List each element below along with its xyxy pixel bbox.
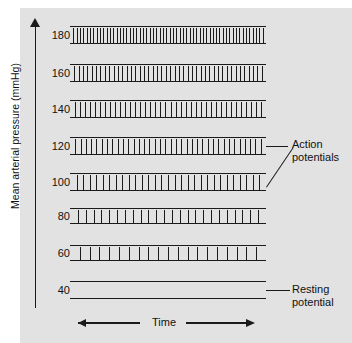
action-potential-spike	[95, 102, 96, 117]
action-potential-spike	[101, 210, 102, 223]
action-potential-spike	[216, 102, 217, 117]
action-potential-spike	[258, 210, 259, 223]
action-potential-spike	[110, 28, 111, 43]
action-potential-spike	[196, 66, 197, 81]
action-potential-spike	[155, 102, 156, 117]
spike-group	[70, 102, 266, 117]
action-potential-spike	[133, 210, 134, 223]
action-potential-spike	[206, 28, 207, 43]
action-potential-spike	[242, 210, 243, 223]
action-potential-spike	[83, 175, 84, 190]
action-potential-spike	[129, 175, 130, 190]
action-potential-spike	[140, 66, 141, 81]
action-potential-spike	[219, 210, 220, 223]
x-axis: Time	[78, 316, 258, 330]
action-potential-spike	[231, 102, 232, 117]
action-potential-spike	[221, 102, 222, 117]
action-potential-spike	[216, 28, 217, 43]
action-potential-spike	[205, 66, 206, 81]
spike-trace-80	[70, 208, 266, 224]
action-potential-spike	[201, 175, 202, 190]
action-potential-spike	[250, 210, 251, 223]
action-potential-spike	[123, 28, 124, 43]
action-potential-spike	[181, 175, 182, 190]
y-tick-label-60: 60	[40, 248, 70, 259]
action-potential-spike	[203, 28, 204, 43]
action-potential-spike	[163, 28, 164, 43]
action-potential-spike	[251, 102, 252, 117]
action-potential-spike	[134, 139, 135, 154]
action-potential-spike	[150, 102, 151, 117]
action-potential-spike	[250, 139, 251, 154]
action-potential-spike	[153, 28, 154, 43]
action-potential-spike	[201, 102, 202, 117]
action-potential-spike	[78, 210, 79, 223]
action-potential-spike	[179, 66, 180, 81]
action-potential-spike	[256, 28, 257, 43]
action-potential-spike	[125, 210, 126, 223]
action-potential-spike	[241, 102, 242, 117]
action-potential-spike	[257, 66, 258, 81]
action-potential-spike	[145, 102, 146, 117]
action-potential-spike	[187, 139, 188, 154]
action-potential-spike	[190, 28, 191, 43]
action-potential-spike	[122, 175, 123, 190]
action-potential-spike	[160, 28, 161, 43]
action-potential-spike	[226, 102, 227, 117]
action-potential-spike	[256, 247, 257, 260]
resting-potential-leader	[266, 290, 290, 291]
action-potential-spike	[259, 175, 260, 190]
action-potential-spike	[219, 28, 220, 43]
action-potential-spike	[173, 28, 174, 43]
action-potential-spike	[200, 28, 201, 43]
action-potential-spike	[176, 28, 177, 43]
resting-potential-label-line1: Resting	[292, 283, 329, 296]
action-potential-spike	[133, 28, 134, 43]
action-potential-spike	[96, 175, 97, 190]
action-potential-spike	[194, 175, 195, 190]
y-axis	[22, 18, 50, 308]
x-axis-label: Time	[142, 316, 186, 328]
action-potential-spike	[233, 28, 234, 43]
action-potential-spike	[135, 102, 136, 117]
action-potential-spike	[261, 102, 262, 117]
action-potential-spike	[94, 210, 95, 223]
action-potential-spike	[80, 247, 81, 260]
action-potential-spike	[223, 28, 224, 43]
action-potential-spike	[255, 139, 256, 154]
spike-trace-40	[70, 281, 266, 299]
action-potential-spike	[176, 102, 177, 117]
action-potential-spike	[79, 66, 80, 81]
action-potential-spike	[246, 28, 247, 43]
action-potential-spike	[103, 175, 104, 190]
action-potential-spike	[231, 66, 232, 81]
action-potential-spike	[83, 66, 84, 81]
spike-trace-100	[70, 173, 266, 191]
action-potential-spike	[188, 247, 189, 260]
spike-group	[70, 247, 266, 260]
action-potential-spike	[226, 28, 227, 43]
action-potential-spike	[96, 66, 97, 81]
action-potential-spike	[80, 102, 81, 117]
action-potential-spike	[196, 28, 197, 43]
action-potential-spike	[105, 102, 106, 117]
action-potential-spike	[165, 102, 166, 117]
action-potential-spike	[99, 247, 100, 260]
spike-trace-160	[70, 64, 266, 82]
action-potential-spike	[229, 139, 230, 154]
action-potential-spike	[245, 139, 246, 154]
action-potential-spike	[146, 28, 147, 43]
action-potential-spike	[127, 66, 128, 81]
action-potential-spike	[107, 139, 108, 154]
action-potential-spike	[166, 28, 167, 43]
action-potential-spike	[236, 102, 237, 117]
action-potential-spike	[149, 139, 150, 154]
action-potential-spike	[213, 28, 214, 43]
action-potential-spike	[112, 139, 113, 154]
action-potential-spike	[140, 102, 141, 117]
action-potential-spike	[109, 175, 110, 190]
action-potential-spike	[123, 139, 124, 154]
action-potential-spike	[201, 66, 202, 81]
action-potential-spike	[253, 66, 254, 81]
action-potential-spike	[196, 102, 197, 117]
